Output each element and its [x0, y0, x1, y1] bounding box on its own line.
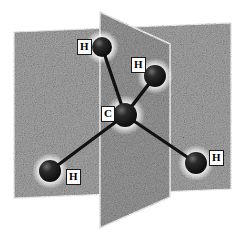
atom-label-h-lower-left: H	[66, 169, 81, 185]
methane-symmetry-plane-figure: H H C H H	[0, 0, 245, 242]
molecule-scene	[0, 0, 245, 242]
atom-label-h-top: H	[77, 39, 92, 55]
hydrogen-atom-lower-left	[39, 160, 61, 182]
atom-label-h-upper-right: H	[131, 57, 146, 73]
hydrogen-atom-upper-right	[144, 65, 166, 87]
hydrogen-atom-lower-right	[185, 152, 207, 174]
carbon-atom	[113, 103, 137, 127]
hydrogen-atom-top	[92, 37, 112, 57]
atom-label-carbon: C	[101, 106, 115, 122]
atom-label-h-lower-right: H	[209, 150, 224, 166]
